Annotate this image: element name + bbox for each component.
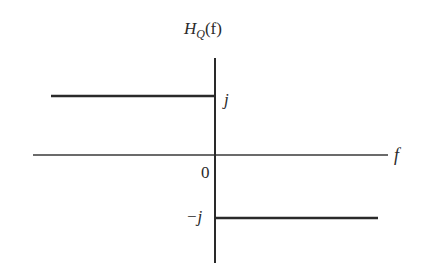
frequency-response-diagram: HQ(f) j 0 −j f	[0, 0, 431, 274]
origin-label: 0	[201, 163, 210, 182]
upper-level-label: j	[222, 90, 229, 109]
lower-level-label: −j	[186, 207, 202, 226]
y-label-subscript: Q	[196, 27, 205, 41]
x-axis-label: f	[394, 145, 402, 165]
y-axis-label: HQ(f)	[183, 19, 222, 41]
y-label-argument: (f)	[205, 19, 222, 38]
